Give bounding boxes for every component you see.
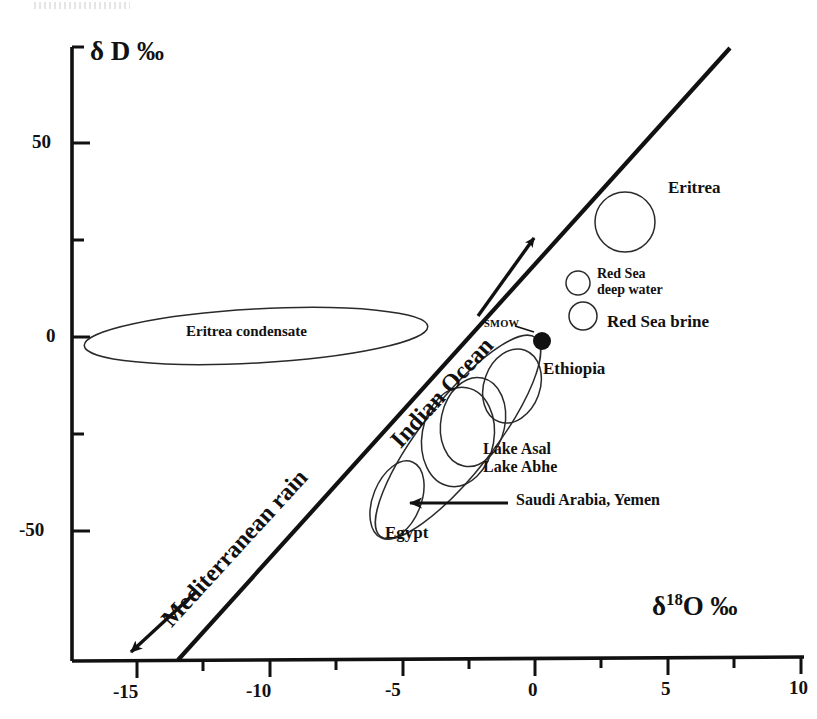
eritrea-label: Eritrea <box>668 178 721 197</box>
red-sea-brine-label: Red Sea brine <box>607 312 709 331</box>
y-tick-label-minus-50: -50 <box>19 519 44 541</box>
x-tick-label-minus-15: -15 <box>113 681 138 703</box>
x-tick-label-5: 5 <box>661 678 671 700</box>
smow-point-group <box>515 326 551 350</box>
field-red-sea-deep-water <box>566 271 590 295</box>
red-sea-deep-water-label: Red Sea deep water <box>597 266 663 297</box>
ethiopia-label: Ethiopia <box>543 359 605 378</box>
x-tick-label-0: 0 <box>528 679 538 701</box>
smow-point <box>533 332 551 350</box>
x-axis-title-delta: δ <box>652 591 666 621</box>
field-red-sea-brine <box>569 302 597 330</box>
x-axis-title-rest: O ‰ <box>683 591 738 621</box>
lake-asal-label: Lake Asal <box>483 440 551 458</box>
y-axis-ticks <box>72 47 90 531</box>
red-sea-deep-water-line1: Red Sea <box>597 266 663 282</box>
y-tick-label-0: 0 <box>46 325 56 347</box>
meteoric-water-line <box>178 48 730 660</box>
red-sea-deep-water-line2: deep water <box>597 282 663 298</box>
axis-lines <box>72 47 804 661</box>
egypt-label: Egypt <box>385 523 428 542</box>
field-eritrea <box>595 192 655 252</box>
y-axis-title: δ D ‰ <box>90 36 164 67</box>
x-tick-label-minus-10: -10 <box>246 680 271 702</box>
x-tick-label-minus-5: -5 <box>385 679 401 701</box>
x-tick-label-10: 10 <box>789 677 808 699</box>
x-axis-title-superscript: 18 <box>666 590 683 609</box>
smow-label: SMOW <box>484 318 519 330</box>
saudi-arabia-yemen-label: Saudi Arabia, Yemen <box>516 491 660 509</box>
x-axis-title: δ18O ‰ <box>652 590 738 622</box>
lake-abhe-label: Lake Abhe <box>483 458 557 476</box>
isotope-scatter-figure: δ D ‰ δ18O ‰ 50 0 -50 -15 -10 -5 0 5 10 … <box>0 0 817 719</box>
eritrea-condensate-label: Eritrea condensate <box>186 323 307 340</box>
y-tick-label-50: 50 <box>32 131 51 153</box>
